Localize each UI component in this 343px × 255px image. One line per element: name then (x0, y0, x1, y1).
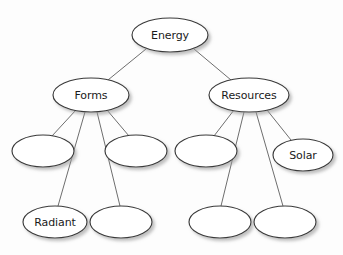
node-radiant[interactable]: Radiant (23, 206, 87, 238)
node-res-c1[interactable] (175, 135, 237, 167)
node-forms-c1[interactable] (12, 135, 74, 167)
node-shape-forms-c2[interactable] (105, 135, 167, 167)
node-label-solar: Solar (289, 149, 317, 162)
node-label-forms: Forms (75, 89, 108, 102)
energy-concept-map: EnergyFormsResourcesRadiantSolar (0, 0, 343, 255)
node-label-radiant: Radiant (34, 216, 76, 229)
node-solar[interactable]: Solar (273, 139, 333, 171)
diagram-canvas: EnergyFormsResourcesRadiantSolar (0, 0, 343, 255)
node-shape-res-c3[interactable] (189, 206, 251, 238)
node-energy[interactable]: Energy (132, 18, 208, 52)
node-forms-c4[interactable] (90, 206, 152, 238)
node-shape-res-c1[interactable] (175, 135, 237, 167)
node-label-resources: Resources (221, 89, 277, 102)
node-label-energy: Energy (151, 29, 190, 42)
node-forms[interactable]: Forms (53, 78, 129, 112)
node-resources[interactable]: Resources (209, 78, 289, 112)
node-res-c3[interactable] (189, 206, 251, 238)
node-shape-res-c4[interactable] (254, 206, 316, 238)
node-res-c4[interactable] (254, 206, 316, 238)
node-shape-forms-c1[interactable] (12, 135, 74, 167)
node-forms-c2[interactable] (105, 135, 167, 167)
node-shape-forms-c4[interactable] (90, 206, 152, 238)
